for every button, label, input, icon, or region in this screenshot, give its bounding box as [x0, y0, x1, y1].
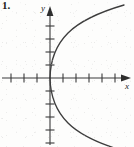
- y-axis-arrow-up-icon: [47, 6, 54, 16]
- x-axis-label: x: [124, 81, 129, 91]
- y-axis-label: y: [40, 3, 45, 13]
- figure-container: 1.: [0, 0, 134, 147]
- parabola-lower-branch: [50, 78, 124, 147]
- cartesian-plot: y x: [0, 0, 134, 147]
- parabola-upper-branch: [50, 5, 124, 78]
